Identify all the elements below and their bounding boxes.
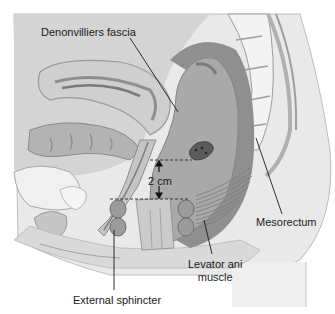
pelvis-sagittal-diagram	[0, 0, 335, 314]
anal-canal	[136, 198, 174, 250]
label-mesorectum: Mesorectum	[256, 216, 317, 229]
label-levator-line1: Levator ani	[188, 258, 242, 271]
label-denonvilliers-fascia: Denonvilliers fascia	[41, 26, 136, 39]
label-levator-ani-muscle: Levator ani muscle	[188, 258, 242, 284]
label-levator-line2: muscle	[188, 271, 242, 284]
label-external-sphincter: External sphincter	[73, 294, 161, 307]
label-2cm-measurement: 2 cm	[148, 175, 172, 188]
thigh-extension	[232, 262, 306, 307]
